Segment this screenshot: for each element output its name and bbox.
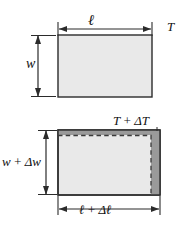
label-length-top: ℓ: [88, 13, 94, 28]
length-dimension-arrow-right-top: [143, 26, 151, 32]
length-dimension-arrow-right-bottom: [151, 206, 159, 212]
expansion-band-right: [151, 130, 160, 195]
plate-before-expansion: [58, 35, 152, 97]
label-length-bottom: ℓ + Δℓ: [79, 203, 111, 216]
width-dimension-arrow-up-top: [35, 35, 41, 44]
length-dimension-arrow-left-bottom: [59, 206, 67, 212]
label-temperature-bottom: T + ΔT: [113, 114, 149, 127]
thermal-expansion-figure: ℓ T w T + ΔT w + Δw ℓ + Δℓ: [0, 0, 186, 226]
expansion-band-top: [58, 130, 160, 135]
label-width-bottom: w + Δw: [2, 155, 41, 168]
figure-drawing: [0, 0, 186, 226]
width-dimension-arrow-down-top: [35, 88, 41, 97]
label-temperature-top: T: [167, 20, 174, 33]
width-dimension-arrow-up-bottom: [43, 130, 49, 139]
label-width-top: w: [26, 57, 35, 71]
plate-after-expansion: [58, 130, 160, 195]
length-dimension-arrow-left-top: [59, 26, 67, 32]
width-dimension-arrow-down-bottom: [43, 186, 49, 195]
